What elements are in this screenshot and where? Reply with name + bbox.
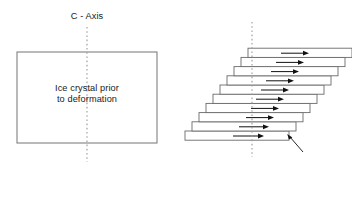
c-axis-label-left: C - Axis (71, 11, 103, 22)
undeformed-crystal-panel: C - Axis Ice crystal prior to deformatio… (0, 0, 176, 197)
deformed-crystal-panel: C - Axis Deformed ice crystal Dislocatio… (176, 0, 352, 197)
undeformed-crystal-label: Ice crystal prior to deformation (55, 83, 119, 106)
ice-crystal-deformation-figure: C - Axis Ice crystal prior to deformatio… (0, 0, 352, 197)
